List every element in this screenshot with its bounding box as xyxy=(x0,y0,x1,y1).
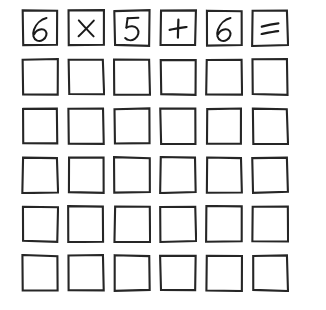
grid-cell-empty[interactable] xyxy=(21,58,59,96)
grid-cell-empty[interactable] xyxy=(159,205,197,243)
grid-cell-empty[interactable] xyxy=(67,254,105,292)
grid-cell-empty[interactable] xyxy=(205,107,243,145)
grid-cell-empty[interactable] xyxy=(67,205,105,243)
grid-cell-filled[interactable]: = xyxy=(251,9,289,47)
grid-cell-filled[interactable]: 6 xyxy=(21,9,59,47)
answer-grid: 6×5+6= xyxy=(21,9,289,292)
grid-cell-empty[interactable] xyxy=(205,254,243,292)
grid-cell-empty[interactable] xyxy=(113,156,151,194)
grid-cell-empty[interactable] xyxy=(67,107,105,145)
grid-cell-empty[interactable] xyxy=(67,58,105,96)
grid-cell-empty[interactable] xyxy=(159,156,197,194)
grid-cell-empty[interactable] xyxy=(113,254,151,292)
grid-cell-empty[interactable] xyxy=(159,107,197,145)
grid-cell-empty[interactable] xyxy=(205,58,243,96)
grid-cell-empty[interactable] xyxy=(159,58,197,96)
grid-cell-filled[interactable]: + xyxy=(159,9,197,47)
grid-cell-empty[interactable] xyxy=(159,254,197,292)
worksheet-canvas: 6×5+6= xyxy=(0,0,326,310)
grid-cell-empty[interactable] xyxy=(113,58,151,96)
grid-cell-empty[interactable] xyxy=(205,205,243,243)
grid-cell-empty[interactable] xyxy=(251,156,289,194)
grid-cell-empty[interactable] xyxy=(21,156,59,194)
grid-cell-empty[interactable] xyxy=(251,107,289,145)
grid-cell-empty[interactable] xyxy=(113,107,151,145)
grid-cell-empty[interactable] xyxy=(251,205,289,243)
grid-cell-filled[interactable]: 5 xyxy=(113,9,151,47)
grid-cell-empty[interactable] xyxy=(21,205,59,243)
grid-cell-empty[interactable] xyxy=(21,254,59,292)
grid-cell-empty[interactable] xyxy=(113,205,151,243)
grid-cell-empty[interactable] xyxy=(251,254,289,292)
grid-cell-filled[interactable]: 6 xyxy=(205,9,243,47)
grid-cell-empty[interactable] xyxy=(21,107,59,145)
grid-cell-empty[interactable] xyxy=(67,156,105,194)
grid-cell-empty[interactable] xyxy=(205,156,243,194)
grid-cell-empty[interactable] xyxy=(251,58,289,96)
grid-cell-filled[interactable]: × xyxy=(67,9,105,47)
